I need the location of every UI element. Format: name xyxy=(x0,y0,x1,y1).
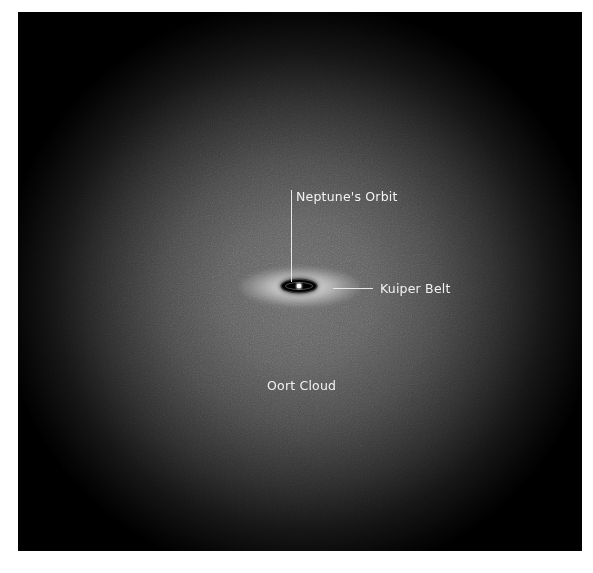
neptune-orbit-leader-line xyxy=(291,190,292,282)
neptune-orbit-ellipse xyxy=(282,280,316,292)
kuiper-belt-label: Kuiper Belt xyxy=(380,281,451,296)
kuiper-belt-leader-line xyxy=(333,288,373,289)
solar-system-diagram: Neptune's Orbit Kuiper Belt Oort Cloud xyxy=(18,12,582,551)
neptune-orbit-label: Neptune's Orbit xyxy=(296,189,398,204)
sun-icon xyxy=(297,284,301,288)
oort-cloud-label: Oort Cloud xyxy=(267,378,336,393)
